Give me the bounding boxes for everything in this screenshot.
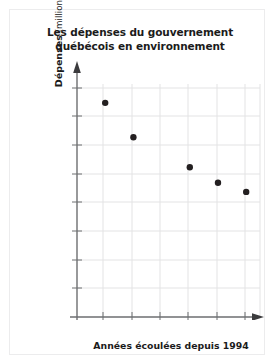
plot-area: 800 700 600 500 400 300 200 100 0 1 2 3 … — [68, 58, 264, 320]
chart-figure-card: Les dépenses du gouvernement québécois e… — [9, 9, 265, 355]
x-tick-marks — [103, 312, 245, 320]
x-axis-arrow-icon — [252, 313, 264, 320]
horizontal-gridlines — [77, 88, 260, 288]
data-point — [243, 189, 249, 195]
data-point-group — [102, 100, 249, 195]
y-axis-arrow-icon — [73, 61, 81, 73]
data-point — [130, 134, 136, 140]
y-axis-title-units: (millions $) — [54, 0, 64, 35]
data-point — [215, 180, 221, 186]
chart-title-line-1: Les dépenses du gouvernement — [47, 26, 233, 38]
y-axis — [73, 61, 81, 320]
data-point — [187, 164, 193, 170]
x-axis — [70, 313, 264, 320]
y-axis-title-strong: Dépenses — [53, 35, 64, 87]
vertical-gridlines — [103, 84, 260, 317]
x-axis-title: Années écoulées depuis 1994 — [82, 340, 260, 351]
data-point — [102, 100, 108, 106]
scatter-plot-svg: 800 700 600 500 400 300 200 100 0 1 2 3 … — [68, 58, 264, 320]
y-axis-title: Dépenses (millions $) — [53, 0, 64, 101]
